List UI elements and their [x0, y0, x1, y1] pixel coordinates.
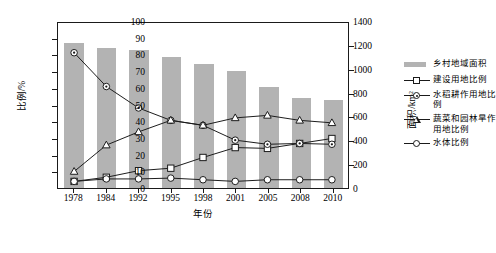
data-point-triangle — [264, 111, 272, 118]
legend-label: 水体比例 — [433, 137, 496, 147]
y-axis-left-tick: 100 — [105, 17, 145, 27]
legend-item[interactable]: 水体比例 — [404, 137, 496, 149]
x-axis-tick-mark — [138, 189, 139, 193]
x-axis-tick-mark — [106, 189, 107, 193]
y-axis-right-tick: 1000 — [353, 65, 397, 75]
y-axis-right-tick-mark — [349, 46, 354, 47]
x-axis-tick: 2001 — [226, 193, 245, 203]
legend-key-square-icon — [404, 75, 430, 86]
legend-key-triangle-icon — [404, 114, 430, 125]
y-axis-left-tick-mark — [52, 172, 57, 173]
data-point-circle-filled — [232, 137, 239, 144]
y-axis-left-tick: 60 — [105, 84, 145, 94]
y-axis-left-tick: 30 — [105, 134, 145, 144]
x-axis-tick: 1978 — [64, 193, 83, 203]
x-axis-label: 年份 — [193, 206, 213, 220]
x-axis-tick: 2008 — [291, 193, 310, 203]
y-axis-left-tick-mark — [52, 156, 57, 157]
x-axis-tick-mark — [73, 189, 74, 193]
legend: 乡村地域面积建设用地比例水稻耕作用地比例蔬菜和园林旱作用地比例水体比例 — [404, 58, 496, 153]
legend-label: 水稻耕作用地比例 — [433, 89, 496, 110]
data-point-circle — [168, 175, 175, 182]
legend-key-circle-filled-icon — [404, 90, 430, 101]
data-point-circle-filled — [264, 141, 271, 148]
legend-item[interactable]: 水稻耕作用地比例 — [404, 89, 496, 110]
x-axis-tick: 2005 — [258, 193, 277, 203]
y-axis-left-label: 比例/% — [14, 81, 28, 112]
x-axis-tick: 1995 — [161, 193, 180, 203]
legend-item[interactable]: 乡村地域面积 — [404, 58, 496, 70]
data-point-square — [200, 154, 206, 160]
y-axis-left-tick: 20 — [105, 151, 145, 161]
y-axis-right-tick: 1200 — [353, 41, 397, 51]
data-point-circle — [200, 176, 207, 183]
y-axis-right-tick-mark — [349, 165, 354, 166]
x-axis-tick-mark — [268, 189, 269, 193]
data-point-circle — [264, 176, 271, 183]
x-axis-tick: 2010 — [323, 193, 342, 203]
data-point-square — [232, 144, 238, 150]
y-axis-left-tick-mark — [52, 72, 57, 73]
y-axis-left-tick-mark — [52, 39, 57, 40]
y-axis-right-tick: 400 — [353, 136, 397, 146]
data-point-circle — [296, 176, 303, 183]
y-axis-right-tick: 200 — [353, 160, 397, 170]
y-axis-right-tick-mark — [349, 117, 354, 118]
x-axis-tick: 1984 — [96, 193, 115, 203]
y-axis-right-tick: 0 — [353, 184, 397, 194]
y-axis-left-tick-mark — [52, 106, 57, 107]
y-axis-right-tick: 1400 — [353, 17, 397, 27]
legend-item[interactable]: 蔬菜和园林旱作用地比例 — [404, 113, 496, 134]
y-axis-left-tick: 50 — [105, 101, 145, 111]
y-axis-right-tick: 800 — [353, 89, 397, 99]
legend-item[interactable]: 建设用地比例 — [404, 74, 496, 86]
legend-label: 蔬菜和园林旱作用地比例 — [433, 113, 496, 134]
legend-key-bar-icon — [404, 59, 430, 70]
y-axis-left-tick: 40 — [105, 117, 145, 127]
y-axis-left-tick: 70 — [105, 67, 145, 77]
y-axis-right-tick: 600 — [353, 112, 397, 122]
data-point-circle — [232, 178, 239, 185]
data-point-triangle — [70, 168, 78, 175]
line-series-layer — [58, 23, 348, 188]
y-axis-left-tick-mark — [52, 55, 57, 56]
data-point-square — [168, 165, 174, 171]
y-axis-left-tick: 90 — [105, 34, 145, 44]
data-point-circle — [71, 178, 78, 185]
data-point-circle-filled — [329, 141, 336, 148]
x-axis-tick-mark — [333, 189, 334, 193]
y-axis-right-tick-mark — [349, 141, 354, 142]
x-axis-tick-mark — [171, 189, 172, 193]
legend-key-circle-icon — [404, 138, 430, 149]
x-axis-tick-mark — [235, 189, 236, 193]
y-axis-left-tick: 80 — [105, 50, 145, 60]
y-axis-left-tick: 10 — [105, 167, 145, 177]
y-axis-left-tick-mark — [52, 122, 57, 123]
x-axis-tick: 1992 — [129, 193, 148, 203]
y-axis-right-tick-mark — [349, 94, 354, 95]
chart-figure: 比例/% 面积/km² 年份 乡村地域面积建设用地比例水稻耕作用地比例蔬菜和园林… — [0, 0, 496, 253]
data-point-circle-filled — [296, 140, 303, 147]
data-point-circle-filled — [71, 49, 78, 56]
x-axis-tick: 1998 — [194, 193, 213, 203]
legend-label: 建设用地比例 — [433, 74, 496, 84]
x-axis-tick-mark — [203, 189, 204, 193]
legend-label: 乡村地域面积 — [433, 58, 496, 68]
plot-area — [57, 22, 349, 189]
y-axis-right-tick-mark — [349, 70, 354, 71]
data-point-circle — [329, 176, 336, 183]
y-axis-left-tick-mark — [52, 139, 57, 140]
x-axis-tick-mark — [300, 189, 301, 193]
y-axis-left-tick-mark — [52, 89, 57, 90]
